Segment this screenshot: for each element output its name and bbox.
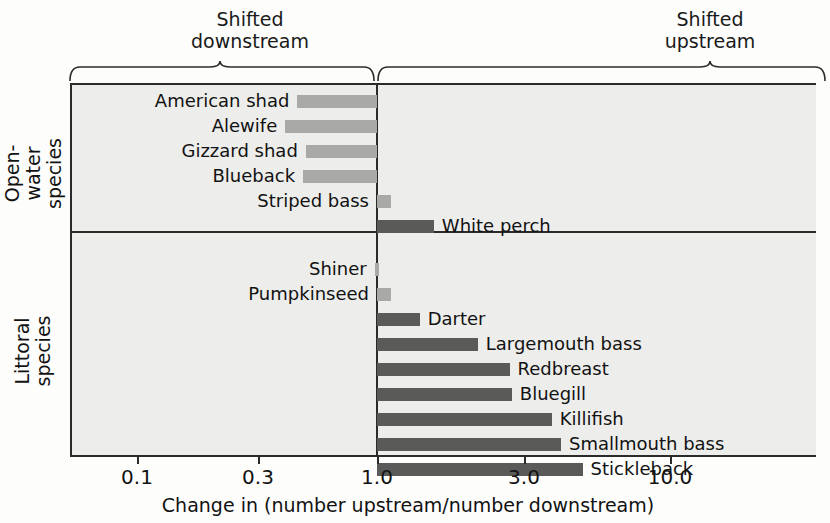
bar-killifish [377, 413, 552, 426]
bar-white-perch [377, 220, 434, 233]
bar-alewife [285, 120, 377, 133]
brace-right-icon [377, 60, 827, 82]
bar-darter [377, 313, 420, 326]
bar-blueback [303, 170, 377, 183]
x-tick-0.1 [137, 455, 139, 464]
bar-bluegill [377, 388, 512, 401]
bar-label-smallmouth-bass: Smallmouth bass [569, 435, 724, 453]
bar-label-alewife: Alewife [212, 117, 278, 135]
bar-label-gizzard-shad: Gizzard shad [181, 142, 297, 160]
bar-label-redbreast: Redbreast [518, 360, 609, 378]
brace-left-icon [68, 60, 388, 82]
x-tick-label-3.0: 3.0 [508, 466, 540, 488]
x-tick-label-0.1: 0.1 [121, 466, 153, 488]
x-tick-1.0 [377, 455, 379, 464]
x-tick-10.0 [670, 455, 672, 464]
bar-label-largemouth-bass: Largemouth bass [486, 335, 642, 353]
x-tick-label-1.0: 1.0 [361, 466, 393, 488]
x-axis-line [70, 455, 816, 457]
bar-label-darter: Darter [428, 310, 486, 328]
bar-smallmouth-bass [377, 438, 561, 451]
x-tick-label-10.0: 10.0 [648, 466, 693, 488]
bar-label-killifish: Killifish [560, 410, 624, 428]
shifted-downstream-heading: Shifted downstream [130, 8, 370, 52]
bar-label-american-shad: American shad [155, 92, 290, 110]
bar-striped-bass [377, 195, 391, 208]
group-label-littoral: Littoral species [12, 296, 54, 406]
shifted-upstream-heading: Shifted upstream [590, 8, 830, 52]
x-tick-3.0 [524, 455, 526, 464]
bar-redbreast [377, 363, 510, 376]
x-axis-title: Change in (number upstream/number downst… [0, 494, 816, 516]
bar-pumpkinseed [377, 288, 391, 301]
bar-gizzard-shad [306, 145, 377, 158]
x-tick-0.3 [258, 455, 260, 464]
bar-label-striped-bass: Striped bass [257, 192, 369, 210]
group-label-open-water: Open-water species [2, 119, 65, 229]
bar-label-white-perch: White perch [442, 217, 551, 235]
bar-shiner [375, 263, 379, 276]
bar-label-shiner: Shiner [309, 260, 367, 278]
bar-stickleback [377, 463, 583, 476]
bar-label-bluegill: Bluegill [520, 385, 586, 403]
x-tick-label-0.3: 0.3 [242, 466, 274, 488]
bar-label-pumpkinseed: Pumpkinseed [248, 285, 369, 303]
bar-american-shad [297, 95, 377, 108]
bar-largemouth-bass [377, 338, 478, 351]
bar-label-blueback: Blueback [212, 167, 295, 185]
